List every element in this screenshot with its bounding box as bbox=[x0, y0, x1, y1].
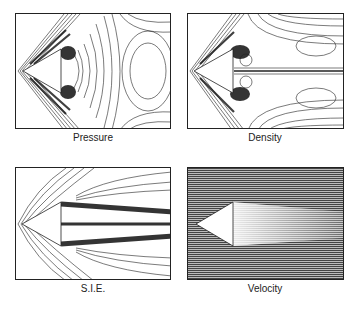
sie-label: S.I.E. bbox=[15, 283, 171, 294]
pressure-contours bbox=[16, 14, 171, 129]
sie-contours bbox=[16, 168, 171, 280]
pressure-plot bbox=[15, 13, 171, 129]
density-label: Density bbox=[187, 132, 343, 143]
sie-plot bbox=[15, 167, 171, 280]
density-plot bbox=[187, 13, 344, 129]
velocity-label: Velocity bbox=[187, 283, 343, 294]
pressure-label: Pressure bbox=[15, 132, 171, 143]
velocity-plot bbox=[187, 167, 344, 280]
density-contours bbox=[188, 14, 344, 129]
velocity-vectors bbox=[188, 168, 344, 280]
